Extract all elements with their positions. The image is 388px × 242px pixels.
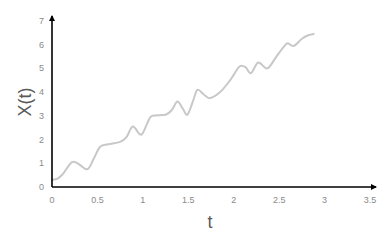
x-tick-label: 0 <box>49 195 54 205</box>
series-group <box>52 34 314 180</box>
x-tick-label: 1.5 <box>182 195 195 205</box>
x-tick-label: 3 <box>322 195 327 205</box>
line-chart: 01234567 00.511.522.533.5 X(t) t <box>0 0 388 242</box>
y-tick-label: 0 <box>39 182 44 192</box>
x-tick-label: 2.5 <box>273 195 286 205</box>
y-tick-label: 2 <box>39 135 44 145</box>
x-tick-label: 0.5 <box>91 195 104 205</box>
y-tick-label: 6 <box>39 40 44 50</box>
y-tick-label: 5 <box>39 63 44 73</box>
series-line-xt <box>52 34 314 180</box>
y-tick-label: 4 <box>39 87 44 97</box>
y-tick-label: 7 <box>39 16 44 26</box>
x-tick-label: 2 <box>231 195 236 205</box>
x-axis-title: t <box>207 212 212 232</box>
y-axis-title: X(t) <box>15 88 35 117</box>
y-tick-label: 3 <box>39 111 44 121</box>
y-axis-ticks: 01234567 <box>39 16 44 192</box>
x-tick-label: 3.5 <box>364 195 377 205</box>
x-axis-ticks: 00.511.522.533.5 <box>49 195 376 205</box>
y-tick-label: 1 <box>39 158 44 168</box>
x-tick-label: 1 <box>140 195 145 205</box>
